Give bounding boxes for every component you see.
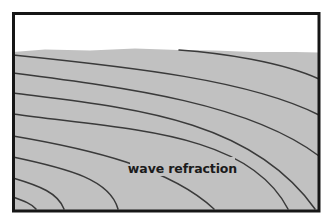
page: wave refraction — [0, 0, 331, 224]
wave-refraction-diagram: wave refraction — [0, 0, 331, 224]
diagram-label: wave refraction — [128, 161, 237, 176]
